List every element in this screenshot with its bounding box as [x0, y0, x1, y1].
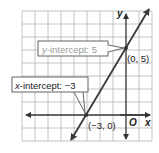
x-intercept-text: -intercept: −3: [20, 80, 76, 91]
point-y-intercept: [124, 46, 128, 50]
point-y-intercept-label: (0, 5): [127, 53, 149, 64]
x-intercept-callout: x-intercept: −3: [12, 77, 88, 113]
svg-text:y-intercept: 5: y-intercept: 5: [41, 44, 97, 55]
y-axis-label: y: [116, 8, 123, 19]
y-intercept-text: -intercept: 5: [47, 44, 97, 55]
y-intercept-callout: y-intercept: 5: [38, 41, 124, 56]
point-x-intercept: [84, 113, 88, 117]
point-x-intercept-label: (−3, 0): [88, 120, 116, 131]
svg-text:x-intercept: −3: x-intercept: −3: [14, 80, 75, 91]
graph-line-lower: [71, 115, 86, 140]
x-axis-label: x: [144, 117, 151, 128]
coordinate-graph: y-intercept: 5 x-intercept: −3 (0, 5) (−…: [0, 0, 159, 153]
origin-label: O: [129, 117, 137, 128]
